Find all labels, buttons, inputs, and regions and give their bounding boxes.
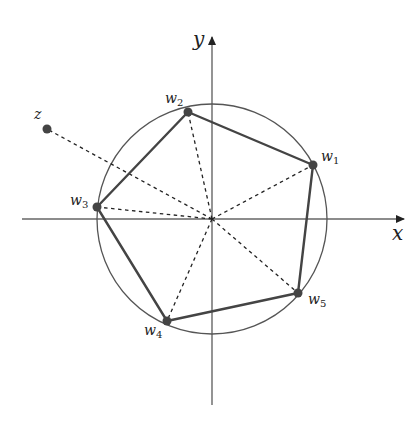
label-w4-main: w [144, 322, 156, 338]
label-w2: w2 [165, 90, 183, 108]
label-w4: w4 [144, 322, 162, 340]
label-w5-main: w [308, 291, 320, 307]
point-w3 [93, 203, 102, 212]
pentagon [97, 112, 313, 321]
point-w5 [294, 289, 303, 298]
point-z [43, 125, 52, 134]
label-w5: w5 [308, 291, 326, 309]
radius-w4 [167, 219, 212, 321]
radius-w1 [212, 165, 313, 219]
label-w1: w1 [321, 148, 339, 166]
label-w3-main: w [70, 192, 82, 208]
radius-w5 [212, 219, 298, 293]
radius-w2 [188, 112, 212, 219]
point-w1 [309, 161, 318, 170]
label-w3-sub: 3 [82, 199, 88, 210]
label-w1-sub: 1 [333, 155, 339, 166]
point-w2 [184, 108, 193, 117]
radius-w3 [97, 207, 212, 219]
dashed-radii [47, 112, 313, 321]
point-w4 [163, 317, 172, 326]
label-w2-main: w [165, 90, 177, 106]
label-w2-sub: 2 [177, 97, 183, 108]
label-w5-sub: 5 [320, 298, 326, 309]
x-axis-label: x [392, 221, 403, 245]
y-axis-label: y [192, 27, 205, 51]
label-w4-sub: 4 [156, 329, 162, 340]
pentagon-diagram: y x z w1 w2 w3 w4 w5 [0, 0, 417, 422]
label-z: z [33, 106, 42, 122]
label-w3: w3 [70, 192, 88, 210]
label-w1-main: w [321, 148, 333, 164]
